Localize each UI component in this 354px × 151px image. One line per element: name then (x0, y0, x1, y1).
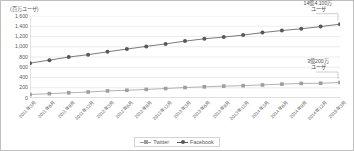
legend-item-twitter[interactable]: Twitter (140, 139, 169, 145)
x-tick-label: 2013年6月 (191, 99, 211, 119)
data-point (164, 86, 168, 90)
x-tick-label: 2012年6月 (114, 99, 134, 119)
data-point (86, 52, 90, 56)
annotation-line-2: ユーザ (292, 65, 344, 71)
y-tick-label: 0 (4, 95, 28, 101)
y-tick-label: 400 (4, 74, 28, 80)
legend-label: Facebook (190, 139, 214, 145)
legend-label: Twitter (153, 139, 169, 145)
y-tick-label: 1,200 (4, 33, 28, 39)
y-tick-label: 800 (4, 54, 28, 60)
data-point (67, 91, 71, 95)
y-tick-label: 200 (4, 84, 28, 90)
data-point (67, 55, 71, 59)
data-point (280, 28, 284, 32)
data-point (144, 44, 148, 48)
series-lines (30, 16, 340, 98)
data-point (319, 81, 323, 85)
y-axis-tick-labels: 02004006008001,0001,2001,4001,600 (1, 16, 28, 98)
x-tick-label: 2011年12月 (73, 99, 95, 121)
data-point (241, 33, 245, 37)
data-point (222, 84, 226, 88)
data-point (30, 92, 32, 96)
annotation-facebook-callout: 14億4,100万ユーザ (292, 1, 344, 13)
legend-item-facebook[interactable]: Facebook (177, 139, 214, 145)
data-point (30, 61, 32, 65)
series-line-facebook (30, 24, 340, 63)
x-tick-label: 2014年3月 (249, 99, 269, 119)
data-point (106, 89, 110, 93)
data-point (299, 81, 303, 85)
data-point (338, 80, 340, 84)
y-axis-title: (百万ユーザ) (10, 5, 38, 12)
data-point (125, 47, 129, 51)
chart-legend: TwitterFacebook (1, 137, 353, 147)
data-point (319, 24, 323, 28)
data-point (241, 83, 245, 87)
data-point (144, 87, 148, 91)
x-tick-label: 2011年6月 (37, 99, 57, 119)
x-tick-label: 2014年6月 (269, 99, 289, 119)
data-point (280, 82, 284, 86)
x-tick-label: 2015年3月 (327, 99, 347, 119)
x-tick-label: 2011年3月 (17, 99, 37, 119)
data-point (261, 83, 265, 87)
x-axis-tick-labels: 2011年3月2011年6月2011年9月2011年12月2012年3月2012… (30, 99, 340, 129)
data-point (203, 85, 207, 89)
data-point (261, 30, 265, 34)
x-tick-label: 2013年3月 (172, 99, 192, 119)
y-tick-label: 600 (4, 64, 28, 70)
legend-marker-icon (177, 139, 188, 145)
data-point (222, 35, 226, 39)
annotation-twitter-callout: 3億200万ユーザ (292, 59, 344, 71)
data-point (164, 41, 168, 45)
data-point (125, 88, 129, 92)
data-point (299, 26, 303, 30)
data-point (86, 90, 90, 94)
y-tick-label: 1,600 (4, 13, 28, 19)
annotation-line-2: ユーザ (292, 7, 344, 13)
data-point (48, 91, 52, 95)
data-point (47, 58, 51, 62)
y-tick-label: 1,000 (4, 43, 28, 49)
plot-area (30, 16, 340, 98)
data-point (338, 22, 340, 26)
data-point (183, 39, 187, 43)
data-point (106, 49, 110, 53)
legend-marker-icon (140, 139, 151, 145)
data-point (202, 36, 206, 40)
x-tick-label: 2012年3月 (94, 99, 114, 119)
data-point (183, 85, 187, 89)
x-tick-label: 2014年12月 (306, 99, 328, 121)
x-tick-label: 2012年12月 (151, 99, 173, 121)
legend-box: TwitterFacebook (134, 137, 220, 147)
chart-container: (百万ユーザ) 02004006008001,0001,2001,4001,60… (0, 0, 354, 151)
y-tick-label: 1,400 (4, 23, 28, 29)
